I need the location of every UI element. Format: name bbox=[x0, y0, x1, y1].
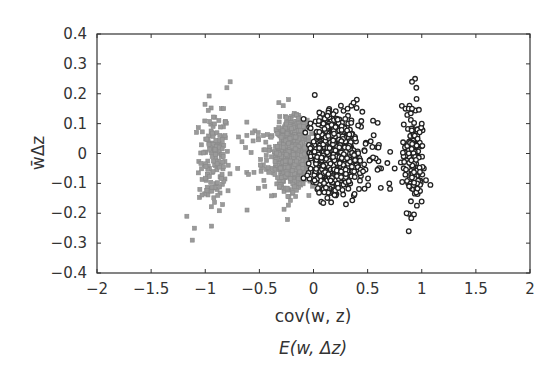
square-marker bbox=[297, 166, 301, 170]
circle-marker bbox=[316, 186, 321, 191]
circle-marker bbox=[332, 131, 337, 136]
square-marker bbox=[210, 131, 214, 135]
circle-marker bbox=[360, 109, 365, 114]
circle-marker bbox=[329, 200, 334, 205]
square-marker bbox=[297, 177, 301, 181]
circle-marker bbox=[409, 128, 414, 133]
y-axis-tick-labels: 0.40.30.20.10−0.1−0.2−0.3−0.4 bbox=[51, 25, 87, 282]
circle-marker bbox=[353, 136, 358, 141]
square-marker bbox=[221, 203, 225, 207]
circle-marker bbox=[376, 145, 381, 150]
circle-marker bbox=[388, 150, 393, 155]
square-marker bbox=[245, 208, 249, 212]
square-marker bbox=[279, 166, 283, 170]
circle-marker bbox=[362, 162, 367, 167]
circle-marker bbox=[388, 187, 393, 192]
square-marker bbox=[277, 101, 281, 105]
y-tick-label: 0.3 bbox=[63, 55, 87, 73]
circle-marker bbox=[428, 183, 433, 188]
circle-marker bbox=[414, 85, 419, 90]
square-marker bbox=[228, 172, 232, 176]
square-marker bbox=[225, 86, 229, 90]
square-marker bbox=[221, 165, 225, 169]
y-tick-label: 0 bbox=[77, 145, 87, 163]
x-tick-label: 2 bbox=[525, 280, 535, 298]
square-marker bbox=[213, 152, 217, 156]
square-marker bbox=[204, 165, 208, 169]
square-marker bbox=[257, 138, 261, 142]
square-marker bbox=[237, 135, 241, 139]
square-marker bbox=[275, 145, 279, 149]
y-tick-label: 0.4 bbox=[63, 25, 87, 43]
square-marker bbox=[307, 194, 311, 198]
square-marker bbox=[288, 136, 292, 140]
circle-marker bbox=[406, 151, 411, 156]
circle-marker bbox=[354, 106, 359, 111]
square-marker bbox=[291, 153, 295, 157]
square-marker bbox=[284, 152, 288, 156]
square-marker bbox=[209, 205, 213, 209]
circle-marker bbox=[322, 181, 327, 186]
circle-marker bbox=[301, 117, 306, 122]
circle-marker bbox=[346, 186, 351, 191]
circle-marker bbox=[314, 167, 319, 172]
circle-marker bbox=[368, 139, 373, 144]
circle-marker bbox=[325, 196, 330, 201]
square-marker bbox=[245, 120, 249, 124]
x-tick-label: −0.5 bbox=[241, 280, 277, 298]
circle-marker bbox=[424, 178, 429, 183]
square-marker bbox=[223, 133, 227, 137]
square-marker bbox=[301, 182, 305, 186]
circle-marker bbox=[317, 130, 322, 135]
circle-marker bbox=[322, 190, 327, 195]
x-axis-label: cov(w, z) bbox=[275, 306, 352, 326]
square-marker bbox=[283, 159, 287, 163]
circle-marker bbox=[350, 198, 355, 203]
square-marker bbox=[203, 102, 207, 106]
square-marker bbox=[310, 132, 314, 136]
square-marker bbox=[192, 226, 196, 230]
y-tick-label: −0.3 bbox=[51, 234, 87, 252]
square-marker bbox=[196, 171, 200, 175]
square-marker bbox=[207, 175, 211, 179]
square-marker bbox=[200, 167, 204, 171]
circle-marker bbox=[326, 134, 331, 139]
circle-marker bbox=[400, 180, 405, 185]
circle-marker bbox=[410, 106, 415, 111]
square-marker bbox=[222, 107, 226, 111]
square-marker bbox=[277, 185, 281, 189]
x-axis-label-secondary: E(w, Δz) bbox=[279, 338, 347, 358]
square-marker bbox=[293, 185, 297, 189]
square-marker bbox=[244, 146, 248, 150]
circle-marker bbox=[410, 80, 415, 85]
circle-marker bbox=[415, 203, 420, 208]
square-marker bbox=[262, 178, 266, 182]
square-marker bbox=[290, 127, 294, 131]
square-marker bbox=[206, 108, 210, 112]
x-tick-label: 0 bbox=[309, 280, 319, 298]
circle-marker bbox=[352, 175, 357, 180]
square-marker bbox=[274, 151, 278, 155]
circle-marker bbox=[410, 142, 415, 147]
square-marker bbox=[259, 169, 263, 173]
square-marker bbox=[208, 119, 212, 123]
circle-marker bbox=[379, 186, 384, 191]
circle-marker bbox=[352, 169, 357, 174]
square-marker bbox=[247, 172, 251, 176]
square-marker bbox=[285, 132, 289, 136]
circle-marker bbox=[417, 130, 422, 135]
square-marker bbox=[213, 122, 217, 126]
square-marker bbox=[212, 196, 216, 200]
square-marker bbox=[217, 209, 221, 213]
circle-marker bbox=[418, 170, 423, 175]
circle-marker bbox=[357, 187, 362, 192]
circle-marker bbox=[358, 178, 363, 183]
square-marker bbox=[294, 195, 298, 199]
square-marker bbox=[285, 186, 289, 190]
square-marker bbox=[264, 153, 268, 157]
circle-marker bbox=[344, 172, 349, 177]
square-marker bbox=[228, 80, 232, 84]
circle-marker bbox=[371, 133, 376, 138]
circle-marker bbox=[339, 103, 344, 108]
square-marker bbox=[273, 173, 277, 177]
